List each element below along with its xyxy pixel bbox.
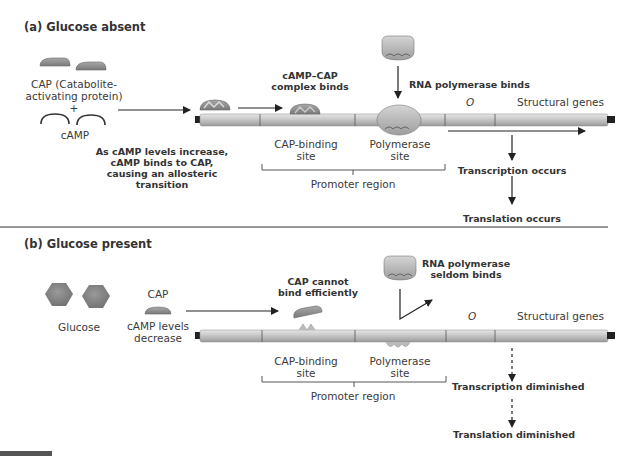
rna-polymerase-icon: [384, 256, 416, 280]
promoter-bracket-a: [262, 164, 445, 175]
pol-site-line2: site: [360, 367, 440, 379]
rnap-seldom-label: RNA polymerase seldom binds: [418, 258, 514, 280]
polymerase-site-icon: [386, 342, 410, 347]
camp-label: cAMP: [50, 129, 100, 141]
cap-site-line1: CAP-binding: [266, 355, 346, 367]
cap-protein-icon: [145, 307, 171, 314]
camp-line2: decrease: [122, 332, 194, 344]
cap-label-line2: activating protein): [14, 90, 134, 102]
rna-polymerase-icon: [382, 36, 414, 60]
complex-binds-line1: cAMP–CAP: [260, 70, 360, 81]
camp-line1: cAMP levels: [122, 320, 194, 332]
complex-binds-line2: complex binds: [260, 81, 360, 92]
allosteric-line2: cAMP binds to CAP,: [92, 157, 232, 168]
cap-cannot-bind-label: CAP cannot bind efficiently: [270, 276, 366, 298]
rnap-binds-label: RNA polymerase binds: [409, 79, 530, 90]
rnap-line2: seldom binds: [418, 269, 514, 280]
glucose-icon: [45, 283, 110, 308]
bound-polymerase-icon: [377, 105, 421, 135]
complex-binds-label: cAMP–CAP complex binds: [260, 70, 360, 92]
cap-site-line2: site: [266, 150, 346, 162]
structural-genes-label-b: Structural genes: [517, 310, 604, 322]
unbound-cap-icon: [294, 306, 322, 330]
allosteric-line4: transition: [92, 179, 232, 190]
cap-binding-site-label-a: CAP-binding site: [266, 138, 346, 162]
polymerase-site-label-a: Polymerase site: [360, 138, 440, 162]
operator-label-a: O: [466, 96, 474, 108]
cap-label-line1: CAP (Catabolite-: [14, 78, 134, 90]
corner-bar: [0, 451, 52, 456]
pol-site-line1: Polymerase: [360, 138, 440, 150]
cap-label: CAP (Catabolite- activating protein) +: [14, 78, 134, 114]
allosteric-line3: causing an allosteric: [92, 168, 232, 179]
pol-site-line1: Polymerase: [360, 355, 440, 367]
allosteric-note: As cAMP levels increase, cAMP binds to C…: [92, 146, 232, 190]
translation-label-a: Translation occurs: [452, 213, 572, 224]
camp-decrease-label: cAMP levels decrease: [122, 320, 194, 344]
cap-protein-icon: [40, 58, 106, 70]
operator-label-b: O: [468, 310, 476, 322]
cap-site-line1: CAP-binding: [266, 138, 346, 150]
allosteric-line1: As cAMP levels increase,: [92, 146, 232, 157]
transcription-label-a: Transcription occurs: [452, 165, 572, 176]
dna-strand-b: [195, 330, 615, 342]
panel-a-title: (a) Glucose absent: [24, 20, 146, 34]
rnap-line1: RNA polymerase: [418, 258, 514, 269]
glucose-label: Glucose: [44, 321, 114, 333]
panel-b-title: (b) Glucose present: [24, 237, 152, 251]
camp-cap-complex-icon: [200, 100, 230, 110]
polymerase-site-label-b: Polymerase site: [360, 355, 440, 379]
structural-genes-label-a: Structural genes: [517, 96, 604, 108]
cannot-bind-line2: bind efficiently: [270, 287, 366, 298]
translation-label-b: Translation diminished: [452, 429, 576, 440]
pol-site-line2: site: [360, 150, 440, 162]
cap-site-line2: site: [266, 367, 346, 379]
promoter-region-label-a: Promoter region: [303, 178, 403, 190]
cannot-bind-line1: CAP cannot: [270, 276, 366, 287]
cap-label-b: CAP: [140, 288, 176, 300]
camp-icon: [41, 114, 105, 125]
plus-sign: +: [14, 102, 134, 114]
promoter-region-label-b: Promoter region: [303, 390, 403, 402]
transcription-label-b: Transcription diminished: [452, 381, 576, 392]
bound-cap-icon: [290, 104, 320, 114]
cap-binding-site-label-b: CAP-binding site: [266, 355, 346, 379]
